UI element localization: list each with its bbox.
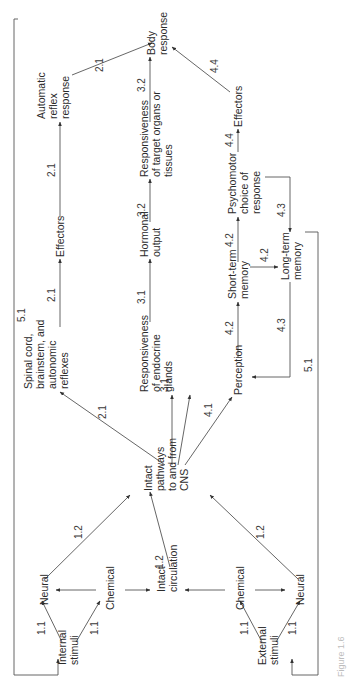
edge-pathways-spinal: [60, 392, 165, 465]
nodes: Internal stimuli Neural Chemical Intact …: [22, 12, 306, 665]
edge-pathways-endocrine-2: [178, 395, 190, 465]
label-target-body: 3.2: [136, 78, 147, 92]
node-neural-bottom: Neural: [294, 574, 306, 605]
node-effectors-top: Effectors: [54, 216, 66, 257]
node-automatic-reflex: Automatic reflex response: [35, 69, 71, 119]
node-body-response: Body response: [145, 12, 169, 55]
label-ltm-perception: 4.3: [276, 318, 287, 332]
node-internal-stimuli: Internal stimuli: [56, 627, 80, 665]
label-spinal-effectors: 2.1: [46, 288, 57, 302]
edge-neural-pathways-top: [45, 495, 130, 579]
label-psychomotor-ltm: 4.3: [276, 203, 287, 217]
node-spinal-cord: Spinal cord, brainstem, and autonomic re…: [22, 317, 70, 389]
flow-diagram: 1.1 1.1 1.2 1.2 1.1 1.1 1.2 2.1 2.1 2.1 …: [0, 0, 351, 687]
label-external-chemical: 1.1: [239, 621, 250, 635]
edge-effectors-body: [172, 47, 230, 92]
label-neural-pathways-bottom: 1.2: [255, 525, 266, 539]
node-long-term-memory: Long-term memory: [279, 229, 303, 280]
node-endocrine-glands: Responsiveness of endocrine glands: [138, 312, 174, 392]
label-pathways-perception: 4.1: [203, 403, 214, 417]
label-neural-pathways-top: 1.2: [73, 525, 84, 539]
label-perception-stm: 4.2: [224, 321, 235, 335]
edge-neural-pathways-bottom: [210, 495, 298, 579]
label-effectors-body: 4.4: [209, 59, 220, 73]
node-psychomotor-choice: Psychomotor choice of response: [226, 150, 262, 214]
label-endocrine-hormonal: 3.1: [136, 290, 147, 304]
figure-caption: Figure 1.6: [336, 636, 346, 677]
label-reflex-body: 2.1: [94, 58, 105, 72]
node-intact-circulation: Intact circulation: [155, 545, 179, 592]
label-external-neural: 1.1: [287, 621, 298, 635]
node-external-stimuli: External stimuli: [256, 624, 280, 665]
node-target-organs: Responsiveness of target organs or tissu…: [138, 88, 174, 177]
node-chemical-bottom: Chemical: [234, 566, 246, 610]
label-stm-psychomotor: 4.2: [224, 233, 235, 247]
node-perception: Perception: [232, 345, 244, 395]
label-feedback-top: 5.1: [16, 308, 27, 322]
node-intact-pathways: Intact pathways to and from CNS: [142, 435, 190, 491]
diagram-stage: 1.1 1.1 1.2 1.2 1.1 1.1 1.2 2.1 2.1 2.1 …: [0, 0, 351, 687]
label-psychomotor-effectors: 4.4: [224, 133, 235, 147]
edge-reflex-body: [72, 43, 152, 75]
label-feedback-bottom: 5.1: [303, 358, 314, 372]
label-internal-neural: 1.1: [36, 621, 47, 635]
label-internal-chemical: 1.1: [89, 621, 100, 635]
node-chemical-top: Chemical: [104, 566, 116, 610]
label-effectors-reflex: 2.1: [46, 163, 57, 177]
label-stm-ltm: 4.2: [259, 248, 270, 262]
label-pathways-spinal: 2.1: [97, 405, 108, 419]
node-neural-top: Neural: [38, 574, 50, 605]
node-effectors-bottom: Effectors: [232, 86, 244, 127]
